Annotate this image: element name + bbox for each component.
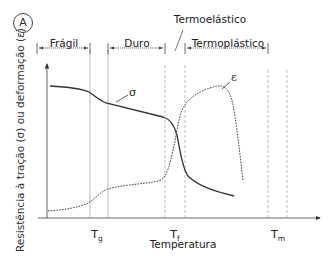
tick-label-tg: Tg [91,228,103,243]
epsilon-label: ε [231,71,237,84]
region-label-fragil: Frágil [50,37,79,49]
region-label-termoplastico: Termoplástico [192,37,265,49]
sigma-label: σ [129,86,137,99]
x-axis-label: Temperatura [150,238,217,250]
epsilon-leader [222,82,230,89]
region-label-termoelastico: Termoelástico [174,13,246,25]
sigma-curve [50,86,234,196]
y-axis-label: Resistência à tração (σ) ou deformação (… [14,28,26,252]
tick-label-tm: Tm [271,228,285,243]
sigma-leader [116,95,128,102]
guide-lines [90,50,287,218]
epsilon-curve [48,86,243,211]
region-label-duro: Duro [124,37,149,49]
